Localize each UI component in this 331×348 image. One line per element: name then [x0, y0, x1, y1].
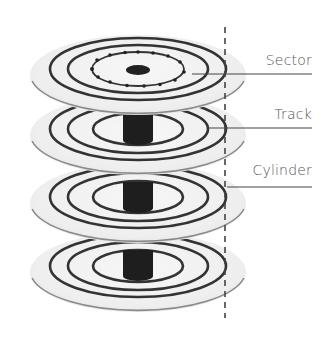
spindle-segment: [123, 114, 153, 145]
cylinder-label: Cylinder: [252, 162, 312, 178]
disk-geometry-diagram: Sector Track Cylinder: [0, 0, 331, 348]
sector-label: Sector: [266, 52, 312, 68]
spindle-segment: [123, 182, 153, 213]
track-label: Track: [274, 106, 312, 122]
platter-4: [30, 232, 246, 312]
spindle-hub: [126, 65, 150, 75]
spindle-segment: [123, 250, 153, 281]
platter-1: [30, 35, 246, 115]
